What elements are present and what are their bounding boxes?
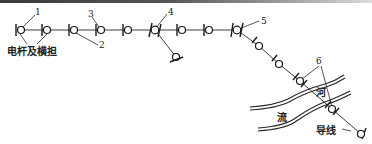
callout-1: 1 — [35, 7, 41, 17]
branch-end-pole — [170, 54, 183, 63]
pole-5 — [123, 24, 132, 36]
callout-6: 6 — [316, 56, 322, 66]
river-label-he: 河 — [316, 87, 326, 98]
pole-end — [358, 128, 367, 139]
callout-3: 3 — [88, 9, 94, 19]
river-label-liu: 流 — [277, 111, 287, 123]
callout-5: 5 — [261, 16, 267, 26]
pole-diag-1 — [252, 37, 263, 50]
conductor-route — [21, 30, 361, 134]
power-line-diagram: 1 2 3 4 5 6 电杆及横担 河 流 导线 — [0, 0, 372, 144]
pole-diag-2 — [272, 55, 283, 68]
branch-pole — [149, 23, 161, 37]
angle-pole — [231, 23, 243, 37]
pole-crossarm-label: 电杆及横担 — [7, 45, 57, 57]
pole-7 — [177, 24, 186, 36]
conductor-label: 导线 — [316, 124, 336, 136]
pole-8 — [204, 24, 213, 36]
callout-2: 2 — [99, 40, 105, 50]
pole-3 — [69, 24, 78, 36]
callout-4: 4 — [168, 7, 174, 17]
pole-4 — [96, 24, 105, 36]
